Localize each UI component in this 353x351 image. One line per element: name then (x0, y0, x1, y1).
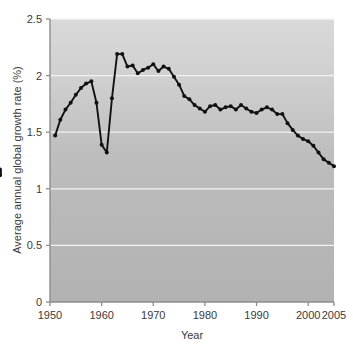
data-point (177, 83, 181, 87)
data-point (182, 94, 186, 98)
data-point (69, 101, 73, 105)
data-point (151, 62, 155, 66)
y-tick-label-2.5: 2.5 (27, 13, 42, 25)
data-point (100, 143, 104, 147)
y-axis-title: Average annual global growth rate (%) (11, 66, 23, 254)
data-point (234, 108, 238, 112)
data-point (74, 93, 78, 97)
data-point (136, 71, 140, 75)
data-point (265, 105, 269, 109)
data-point (156, 69, 160, 73)
data-point (63, 108, 67, 112)
data-point (291, 128, 295, 132)
data-point (301, 137, 305, 141)
growth-rate-chart-figure: 00.511.522.5 195019601970198019902000200… (0, 0, 353, 351)
data-point (244, 106, 248, 110)
data-point (280, 112, 284, 116)
data-point (218, 108, 222, 112)
data-point (296, 134, 300, 138)
data-point (94, 101, 98, 105)
x-axis-ticks: 1950196019701980199020002005 (38, 302, 346, 321)
y-tick-label-0.5: 0.5 (27, 239, 42, 251)
x-tick-label-2000: 2000 (296, 309, 320, 321)
data-point (193, 103, 197, 107)
data-point (239, 103, 243, 107)
x-tick-label-1960: 1960 (89, 309, 113, 321)
data-point (198, 106, 202, 110)
data-point (332, 164, 336, 168)
y-tick-label-2: 2 (36, 70, 42, 82)
data-point (146, 66, 150, 70)
data-point (322, 157, 326, 161)
data-point (131, 63, 135, 67)
chart-canvas: 00.511.522.5 195019601970198019902000200… (0, 0, 353, 351)
data-point (167, 67, 171, 71)
x-tick-label-2005: 2005 (322, 309, 346, 321)
data-point (58, 118, 62, 122)
data-point (162, 65, 166, 69)
data-point (187, 97, 191, 101)
x-tick-label-1950: 1950 (38, 309, 62, 321)
data-point (89, 79, 93, 83)
data-point (229, 104, 233, 108)
y-tick-label-1.5: 1.5 (27, 126, 42, 138)
data-point (79, 86, 83, 90)
plot-area-background (50, 19, 334, 302)
data-point (317, 151, 321, 155)
data-point (208, 104, 212, 108)
x-tick-label-1990: 1990 (244, 309, 268, 321)
data-point (120, 52, 124, 56)
data-point (224, 105, 228, 109)
data-point (249, 110, 253, 114)
data-point (141, 68, 145, 72)
data-point (110, 96, 114, 100)
data-point (260, 108, 264, 112)
data-point (84, 82, 88, 86)
data-point (125, 65, 129, 69)
data-point (270, 108, 274, 112)
data-point (286, 121, 290, 125)
data-point (311, 144, 315, 148)
data-point (306, 139, 310, 143)
x-axis-title: Year (181, 329, 204, 341)
data-point (105, 151, 109, 155)
data-point (327, 161, 331, 165)
data-point (203, 110, 207, 114)
y-axis-ticks: 00.511.522.5 (27, 13, 50, 308)
data-point (255, 111, 259, 115)
y-tick-label-0: 0 (36, 296, 42, 308)
x-tick-label-1980: 1980 (193, 309, 217, 321)
data-point (275, 112, 279, 116)
y-tick-label-1: 1 (36, 183, 42, 195)
data-point (115, 52, 119, 56)
x-tick-label-1970: 1970 (141, 309, 165, 321)
data-point (213, 103, 217, 107)
data-point (172, 75, 176, 79)
data-point (53, 134, 57, 138)
